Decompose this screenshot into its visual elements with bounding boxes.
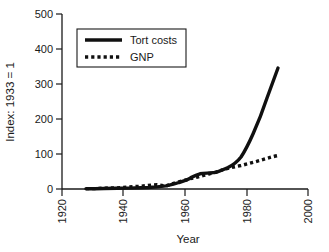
x-tick-label-1920: 1920	[56, 199, 68, 223]
x-tick-label-1940: 1940	[117, 199, 129, 223]
y-axis-title: Index: 1933 = 1	[4, 62, 16, 142]
y-tick-label-100: 100	[35, 148, 53, 160]
line-chart: 500 400 300 200 100 0 1920 1940 1960 198…	[0, 0, 329, 252]
x-tick-label-2000: 2000	[302, 199, 314, 223]
y-tick-label-200: 200	[35, 113, 53, 125]
chart-figure: 500 400 300 200 100 0 1920 1940 1960 198…	[0, 0, 329, 252]
y-tick-label-400: 400	[35, 43, 53, 55]
chart-legend: Tort costs GNP	[77, 29, 186, 67]
y-tick-label-0: 0	[47, 183, 53, 195]
y-tick-label-300: 300	[35, 78, 53, 90]
x-axis-title: Year	[176, 233, 199, 245]
legend-label-tort-costs: Tort costs	[130, 34, 178, 46]
y-tick-label-500: 500	[35, 8, 53, 20]
legend-label-gnp: GNP	[130, 51, 154, 63]
x-tick-label-1980: 1980	[241, 199, 253, 223]
x-tick-label-1960: 1960	[179, 199, 191, 223]
